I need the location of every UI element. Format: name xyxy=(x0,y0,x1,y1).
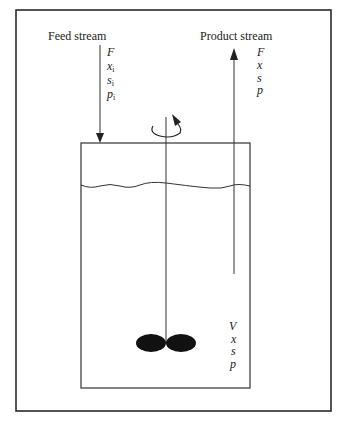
vessel-var-s: s xyxy=(231,345,236,357)
feed-stream-label: Feed stream xyxy=(48,30,106,42)
vessel-var-p: p xyxy=(230,358,236,370)
product-var-x: x xyxy=(257,59,262,71)
feed-var-p: pi xyxy=(107,88,115,104)
product-var-F: F xyxy=(257,46,264,58)
figure-frame xyxy=(16,10,331,411)
feed-var-F: F xyxy=(107,46,114,58)
reactor-diagram xyxy=(0,0,339,428)
feed-arrow-icon xyxy=(96,133,104,143)
product-stream-label: Product stream xyxy=(200,30,272,42)
product-var-p: p xyxy=(257,84,263,96)
product-arrow-icon xyxy=(230,48,238,60)
vessel-var-V: V xyxy=(229,320,236,332)
